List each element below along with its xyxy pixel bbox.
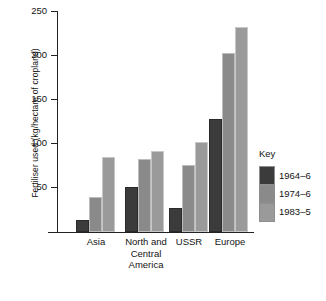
y-axis-tick-250 bbox=[51, 11, 58, 12]
y-axis-label-100: 100 bbox=[5, 137, 47, 148]
bar-asia-1964-6 bbox=[76, 220, 89, 232]
legend-label-1974-6: 1974–6 bbox=[279, 188, 311, 199]
bar-europe-1983-5 bbox=[235, 27, 248, 232]
y-axis-label-200: 200 bbox=[5, 49, 47, 60]
x-axis-line bbox=[48, 232, 254, 233]
bar-nca-1974-6 bbox=[138, 159, 151, 232]
y-axis-tick-200 bbox=[51, 55, 58, 56]
bar-group-asia bbox=[76, 11, 116, 232]
legend-label-1964-6: 1964–6 bbox=[279, 170, 311, 181]
legend-label-1983-5: 1983–5 bbox=[279, 206, 311, 217]
bar-ussr-1983-5 bbox=[195, 142, 208, 232]
bar-group-europe bbox=[209, 11, 249, 232]
x-axis-label-nca-line3: America bbox=[116, 259, 176, 271]
bar-asia-1974-6 bbox=[89, 197, 102, 232]
x-axis-label-europe: Europe bbox=[204, 236, 256, 248]
y-axis-label-150: 150 bbox=[5, 93, 47, 104]
y-axis-title: Fertiliser used (kg/hectare of cropland) bbox=[30, 8, 40, 238]
bar-group-north-and-central-america bbox=[125, 11, 165, 232]
x-axis-label-nca-line2: Central bbox=[116, 248, 176, 260]
y-axis-tick-150 bbox=[51, 99, 58, 100]
y-axis-label-250: 250 bbox=[5, 5, 47, 16]
legend: Key bbox=[258, 148, 324, 161]
y-axis-line bbox=[57, 11, 58, 233]
bar-nca-1964-6 bbox=[125, 187, 138, 232]
legend-title: Key bbox=[259, 148, 324, 159]
bar-ussr-1964-6 bbox=[169, 208, 182, 232]
y-axis-tick-100 bbox=[51, 143, 58, 144]
legend-swatch-1974-6 bbox=[259, 185, 275, 204]
bar-europe-1974-6 bbox=[222, 53, 235, 232]
legend-swatch-1983-5 bbox=[259, 203, 275, 222]
legend-swatch-1964-6 bbox=[259, 166, 275, 185]
bar-ussr-1974-6 bbox=[182, 165, 195, 232]
y-axis-label-50: 50 bbox=[5, 181, 47, 192]
bar-asia-1983-5 bbox=[102, 157, 115, 232]
bar-europe-1964-6 bbox=[209, 119, 222, 232]
x-axis-label-asia: Asia bbox=[72, 236, 120, 248]
bar-nca-1983-5 bbox=[151, 151, 164, 232]
bar-chart-figure: Fertiliser used (kg/hectare of cropland)… bbox=[0, 0, 326, 301]
bar-group-ussr bbox=[169, 11, 209, 232]
y-axis-tick-50 bbox=[51, 187, 58, 188]
